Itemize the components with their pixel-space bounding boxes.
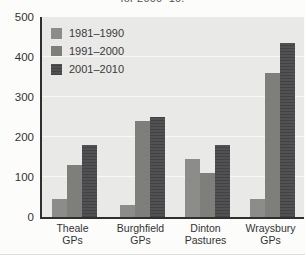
chart: for 2000–10. 0100200300400500 1981–19901…: [0, 0, 305, 255]
bar: [120, 205, 135, 217]
bar: [250, 199, 265, 217]
bar: [265, 73, 280, 217]
x-axis: ThealeGPsBurghfieldGPsDintonPasturesWray…: [40, 222, 302, 252]
x-axis-label: WraysburyGPs: [231, 222, 306, 246]
legend-item: 2001–2010: [51, 60, 124, 78]
y-axis-label: 0: [0, 210, 34, 224]
y-axis: 0100200300400500: [0, 17, 36, 217]
legend-swatch-icon: [51, 46, 62, 57]
bar: [135, 121, 150, 217]
legend-label: 2001–2010: [69, 63, 124, 75]
plot-area: 1981–19901991–20002001–2010: [40, 17, 304, 219]
bar-group: [185, 145, 230, 217]
bar: [185, 159, 200, 217]
y-axis-label: 500: [0, 10, 34, 24]
bar: [67, 165, 82, 217]
y-axis-label: 400: [0, 50, 34, 64]
bar: [82, 145, 97, 217]
legend-label: 1981–1990: [69, 27, 124, 39]
y-axis-label: 300: [0, 90, 34, 104]
bar: [150, 117, 165, 217]
bar: [200, 173, 215, 217]
legend-item: 1981–1990: [51, 24, 124, 42]
bar: [280, 43, 295, 217]
bar-group: [250, 43, 295, 217]
y-axis-label: 200: [0, 130, 34, 144]
legend-item: 1991–2000: [51, 42, 124, 60]
bar-group: [52, 145, 97, 217]
legend-swatch-icon: [51, 28, 62, 39]
bar: [52, 199, 67, 217]
chart-title-fragment: for 2000–10.: [0, 0, 305, 4]
bar: [215, 145, 230, 217]
bar-group: [120, 117, 165, 217]
y-axis-label: 100: [0, 170, 34, 184]
legend-swatch-icon: [51, 64, 62, 75]
legend: 1981–19901991–20002001–2010: [51, 24, 124, 78]
